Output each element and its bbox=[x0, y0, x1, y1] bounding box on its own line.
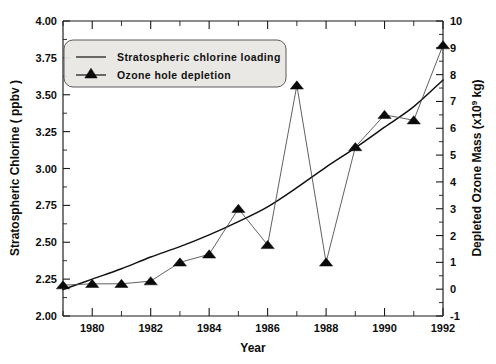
y-tick-label-right: 3 bbox=[450, 203, 456, 215]
y-tick-label-left: 2.00 bbox=[36, 310, 57, 322]
y-tick-label-right: 9 bbox=[450, 42, 456, 54]
y-tick-label-left: 3.75 bbox=[36, 52, 57, 64]
y-tick-label-right: 1 bbox=[450, 256, 456, 268]
y-tick-label-right: 5 bbox=[450, 149, 456, 161]
y-tick-label-left: 2.50 bbox=[36, 236, 57, 248]
y-tick-label-left: 4.00 bbox=[36, 15, 57, 27]
legend-label-ozone: Ozone hole depletion bbox=[117, 69, 231, 81]
y-tick-label-left: 3.25 bbox=[36, 126, 57, 138]
y-axis-left-title: Stratospheric Chlorine ( ppbv ) bbox=[8, 80, 22, 256]
y-tick-label-left: 2.25 bbox=[36, 273, 57, 285]
y-tick-label-right: 8 bbox=[450, 69, 456, 81]
y-axis-right-title-main: Depleted Ozone Mass (x10 bbox=[470, 105, 484, 257]
ozone-chlorine-chart: 2.002.252.502.753.003.253.503.754.00 -10… bbox=[0, 0, 496, 364]
y-tick-label-right: 10 bbox=[450, 15, 462, 27]
y-tick-label-right: 6 bbox=[450, 122, 456, 134]
x-tick-label: 1988 bbox=[314, 322, 338, 334]
y-axis-right-title-tail: kg) bbox=[470, 79, 484, 100]
y-tick-label-right: 7 bbox=[450, 95, 456, 107]
y-tick-label-left: 3.50 bbox=[36, 89, 57, 101]
x-tick-label: 1986 bbox=[255, 322, 279, 334]
y-tick-label-right: -1 bbox=[450, 310, 460, 322]
x-tick-label: 1980 bbox=[80, 322, 104, 334]
y-tick-label-right: 4 bbox=[450, 176, 457, 188]
legend: Stratospheric chlorine loading Ozone hol… bbox=[64, 40, 286, 87]
x-tick-label: 1990 bbox=[372, 322, 396, 334]
x-tick-label: 1984 bbox=[197, 322, 222, 334]
y-axis-right-title: Depleted Ozone Mass (x109 kg) bbox=[470, 79, 484, 256]
x-tick-label: 1992 bbox=[431, 322, 455, 334]
x-tick-label: 1982 bbox=[138, 322, 162, 334]
y-tick-label-right: 2 bbox=[450, 230, 456, 242]
y-tick-label-right: 0 bbox=[450, 283, 456, 295]
x-axis-title: Year bbox=[240, 341, 266, 355]
y-tick-label-left: 2.75 bbox=[36, 199, 57, 211]
legend-label-chlorine: Stratospheric chlorine loading bbox=[117, 51, 281, 63]
y-tick-label-left: 3.00 bbox=[36, 163, 57, 175]
